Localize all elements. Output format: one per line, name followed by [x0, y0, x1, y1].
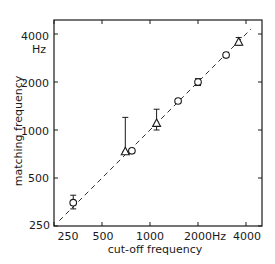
triangle-data-point — [121, 117, 129, 154]
x-tick-label-500: 500 — [93, 230, 114, 243]
x-tick-label-1000: 1000 — [136, 230, 164, 243]
circle-data-point — [223, 52, 230, 59]
triangle-data-point — [153, 109, 161, 130]
y-tick-label-500: 500 — [28, 172, 49, 185]
x-tick-label-250: 250 — [58, 230, 79, 243]
circle-data-point — [129, 148, 136, 155]
x-tick-label-2000: 2000Hz — [184, 230, 226, 243]
circle-data-point — [195, 79, 202, 86]
chart: 4000 Hz 2000 1000 500 250 250 500 1000 2… — [0, 0, 275, 264]
x-tick-label-4000: 4000 — [233, 230, 261, 243]
y-tick-label-2000: 2000 — [21, 77, 49, 90]
data-points — [70, 38, 243, 209]
y-axis-title: matching frequency — [12, 75, 25, 186]
y-unit-label: Hz — [32, 43, 46, 56]
triangle-data-point — [235, 38, 243, 46]
y-tick-label-250: 250 — [29, 219, 50, 232]
circle-data-point — [70, 195, 77, 209]
x-axis-title: cut-off frequency — [108, 243, 203, 256]
circle-data-point — [175, 98, 182, 105]
y-tick-label-4000: 4000 — [21, 30, 49, 43]
y-tick-label-1000: 1000 — [21, 125, 49, 138]
